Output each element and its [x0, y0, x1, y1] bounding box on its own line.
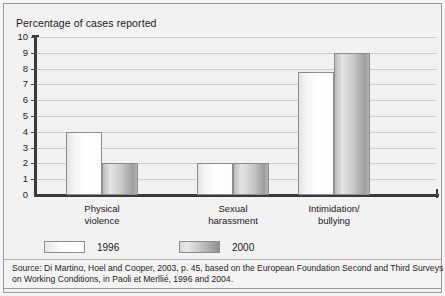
x-category-label-line1: Intimidation/ [284, 203, 384, 215]
figure-bottom-rule [4, 288, 441, 289]
y-tick-mark [31, 100, 36, 101]
y-tick-mark [31, 148, 36, 149]
plot-area [37, 37, 437, 195]
y-tick-label: 4 [6, 126, 28, 137]
bar-1996-3 [298, 72, 334, 195]
gridline [37, 37, 437, 38]
y-tick-label: 5 [6, 110, 28, 121]
bar-2000-3 [334, 53, 370, 195]
source-divider [4, 259, 441, 260]
y-tick-mark [31, 37, 36, 38]
bar-1996-2 [197, 163, 233, 195]
legend-swatch-1996-icon [44, 241, 85, 253]
chart-legend: 1996 2000 [4, 241, 441, 259]
y-tick-mark [31, 116, 36, 117]
gridline [37, 53, 437, 54]
y-tick-label: 10 [6, 31, 28, 42]
y-tick-label: 9 [6, 47, 28, 58]
legend-swatch-2000-icon [179, 241, 220, 253]
y-tick-mark [31, 84, 36, 85]
y-tick-label: 2 [6, 157, 28, 168]
x-category-label: Sexualharassment [183, 203, 283, 226]
chart-panel: Percentage of cases reported 10987654321… [4, 4, 441, 258]
y-tick-mark [31, 53, 36, 54]
source-line-1: Source: Di Martino, Hoel and Cooper, 200… [12, 263, 432, 274]
gridline [37, 69, 437, 70]
y-tick-mark [31, 163, 36, 164]
legend-item-1996: 1996 [44, 241, 119, 253]
y-tick-label: 6 [6, 94, 28, 105]
x-category-label-line2: bullying [284, 215, 384, 227]
y-tick-mark [31, 179, 36, 180]
gridline [37, 84, 437, 85]
y-tick-label: 1 [6, 173, 28, 184]
legend-label-1996: 1996 [97, 242, 119, 253]
bar-2000-1 [102, 163, 138, 195]
gridline [37, 100, 437, 101]
bar-2000-2 [233, 163, 269, 195]
y-tick-mark [31, 69, 36, 70]
x-category-label-line1: Physical [52, 203, 152, 215]
source-line-2: on Working Conditions, in Paoli et Merll… [12, 274, 432, 285]
bar-1996-1 [66, 132, 102, 195]
y-tick-label: 8 [6, 63, 28, 74]
gridline [37, 116, 437, 117]
y-tick-mark [31, 132, 36, 133]
chart-title: Percentage of cases reported [16, 17, 157, 29]
x-category-label-line2: violence [52, 215, 152, 227]
x-category-label-line2: harassment [183, 215, 283, 227]
y-tick-label: 3 [6, 142, 28, 153]
figure-container: Percentage of cases reported 10987654321… [0, 0, 445, 296]
y-tick-label: 7 [6, 78, 28, 89]
legend-item-2000: 2000 [179, 241, 254, 253]
legend-label-2000: 2000 [232, 242, 254, 253]
source-note: Source: Di Martino, Hoel and Cooper, 200… [12, 263, 432, 285]
y-tick-label: 0 [6, 189, 28, 200]
x-category-label: Physicalviolence [52, 203, 152, 226]
x-axis-end-cap [436, 189, 438, 198]
x-category-label: Intimidation/bullying [284, 203, 384, 226]
x-category-label-line1: Sexual [183, 203, 283, 215]
